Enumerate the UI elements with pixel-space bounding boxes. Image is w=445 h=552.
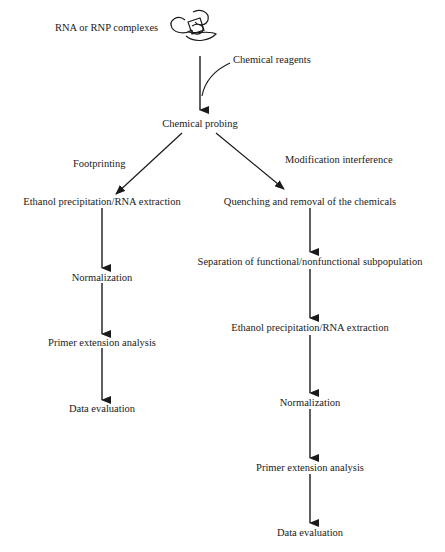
probing-label: Chemical probing xyxy=(162,118,238,130)
right-step-2: Separation of functional/nonfunctional s… xyxy=(198,256,423,268)
right-step-6: Data evaluation xyxy=(277,527,343,539)
branch-left-label: Footprinting xyxy=(73,158,126,170)
left-step-3: Primer extension analysis xyxy=(48,337,156,349)
right-step-5: Primer extension analysis xyxy=(256,462,364,474)
right-step-1: Quenching and removal of the chemicals xyxy=(224,196,396,208)
left-step-2: Normalization xyxy=(72,272,133,284)
left-step-4: Data evaluation xyxy=(69,403,135,415)
reagent-label: Chemical reagents xyxy=(233,54,311,66)
flow-arrows xyxy=(0,0,445,552)
right-step-3: Ethanol precipitation/RNA extraction xyxy=(231,322,388,334)
branch-right-label: Modification interference xyxy=(285,154,393,166)
left-step-1: Ethanol precipitation/RNA extraction xyxy=(23,196,180,208)
start-label: RNA or RNP complexes xyxy=(55,22,158,34)
rna-tangle-icon xyxy=(171,10,216,40)
right-step-4: Normalization xyxy=(280,397,341,409)
